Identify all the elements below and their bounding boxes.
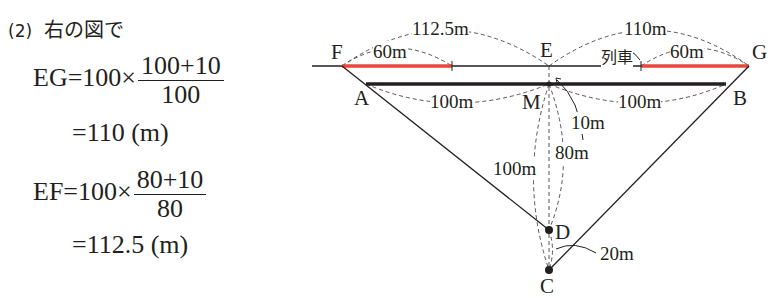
point-c xyxy=(545,266,553,274)
label-d: D xyxy=(555,220,570,245)
arc-dc xyxy=(549,230,553,270)
label-a: A xyxy=(354,86,369,111)
label-eg-length: 110m xyxy=(624,18,667,40)
label-m: M xyxy=(522,90,541,115)
label-mc-length: 100m xyxy=(493,158,536,180)
point-d xyxy=(545,226,553,234)
label-b: B xyxy=(733,86,747,111)
label-train: 列車 xyxy=(601,44,633,68)
label-e: E xyxy=(540,38,553,63)
label-em-length: 10m xyxy=(571,112,605,134)
label-train-right-length: 60m xyxy=(670,41,704,63)
pointer-20m xyxy=(556,245,596,253)
label-ef-length: 112.5m xyxy=(412,18,469,40)
label-train-left-length: 60m xyxy=(373,41,407,63)
label-mb-length: 100m xyxy=(618,91,661,113)
label-f: F xyxy=(331,40,343,65)
label-dc-length: 20m xyxy=(600,243,634,265)
label-md-length: 80m xyxy=(555,142,589,164)
label-g: G xyxy=(752,40,767,65)
point-m xyxy=(547,82,552,87)
label-c: C xyxy=(540,274,554,298)
label-am-length: 100m xyxy=(430,91,473,113)
